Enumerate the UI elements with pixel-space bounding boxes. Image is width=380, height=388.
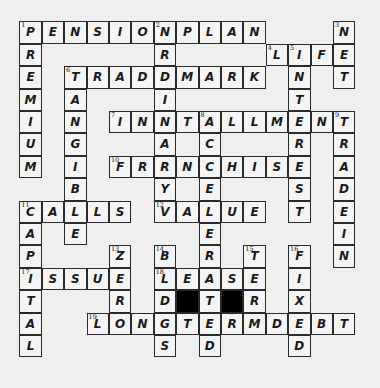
crossword-cell[interactable]: S	[109, 201, 131, 223]
crossword-cell[interactable]: R	[19, 44, 41, 66]
crossword-cell[interactable]: T	[288, 89, 310, 111]
crossword-cell[interactable]: A	[154, 133, 176, 155]
crossword-cell[interactable]: H	[221, 156, 243, 178]
crossword-cell[interactable]: T	[176, 313, 198, 335]
crossword-cell[interactable]: A	[333, 156, 355, 178]
crossword-cell[interactable]: I	[333, 223, 355, 245]
crossword-cell[interactable]: E	[333, 44, 355, 66]
crossword-cell[interactable]: E	[288, 111, 310, 133]
crossword-cell[interactable]: 9T	[333, 111, 355, 133]
crossword-cell[interactable]: E	[109, 268, 131, 290]
crossword-cell[interactable]: 1P	[19, 21, 41, 43]
crossword-cell[interactable]: N	[243, 21, 265, 43]
crossword-cell[interactable]: R	[154, 156, 176, 178]
crossword-cell[interactable]: R	[243, 290, 265, 312]
crossword-cell[interactable]: U	[19, 133, 41, 155]
crossword-cell[interactable]: E	[19, 66, 41, 88]
crossword-cell[interactable]: N	[154, 111, 176, 133]
crossword-cell[interactable]: R	[109, 290, 131, 312]
crossword-cell[interactable]: L	[199, 21, 221, 43]
crossword-cell[interactable]: D	[199, 335, 221, 357]
crossword-cell[interactable]: P	[176, 21, 198, 43]
crossword-cell[interactable]: D	[131, 66, 153, 88]
crossword-cell[interactable]: S	[288, 178, 310, 200]
crossword-cell[interactable]: E	[199, 313, 221, 335]
crossword-cell[interactable]: D	[266, 313, 288, 335]
crossword-cell[interactable]: R	[199, 245, 221, 267]
crossword-cell[interactable]: T	[199, 290, 221, 312]
crossword-cell[interactable]: O	[131, 21, 153, 43]
crossword-cell[interactable]: T	[176, 111, 198, 133]
crossword-cell[interactable]: E	[199, 178, 221, 200]
crossword-cell[interactable]: 11C	[19, 201, 41, 223]
crossword-cell[interactable]: G	[64, 133, 86, 155]
crossword-cell[interactable]: N	[64, 111, 86, 133]
crossword-cell[interactable]: L	[87, 201, 109, 223]
crossword-cell[interactable]: U	[221, 201, 243, 223]
crossword-cell[interactable]: N	[288, 66, 310, 88]
crossword-cell[interactable]: T	[288, 201, 310, 223]
crossword-cell[interactable]: A	[199, 66, 221, 88]
crossword-cell[interactable]: K	[243, 66, 265, 88]
crossword-cell[interactable]: D	[288, 335, 310, 357]
crossword-cell[interactable]: 5I	[288, 44, 310, 66]
crossword-cell[interactable]: L	[19, 335, 41, 357]
crossword-cell[interactable]: D	[154, 290, 176, 312]
crossword-cell[interactable]: S	[64, 268, 86, 290]
crossword-cell[interactable]: E	[333, 201, 355, 223]
crossword-cell[interactable]: A	[64, 89, 86, 111]
crossword-cell[interactable]: I	[243, 156, 265, 178]
crossword-cell[interactable]: A	[199, 268, 221, 290]
crossword-cell[interactable]: 6T	[64, 66, 86, 88]
crossword-cell[interactable]: X	[288, 290, 310, 312]
crossword-cell[interactable]: M	[19, 89, 41, 111]
crossword-cell[interactable]: D	[333, 178, 355, 200]
crossword-cell[interactable]: G	[154, 313, 176, 335]
crossword-cell[interactable]: C	[199, 156, 221, 178]
crossword-cell[interactable]: 8A	[199, 111, 221, 133]
crossword-cell[interactable]: A	[19, 223, 41, 245]
crossword-cell[interactable]: O	[109, 313, 131, 335]
crossword-cell[interactable]: 3N	[333, 21, 355, 43]
crossword-cell[interactable]: U	[87, 268, 109, 290]
crossword-cell[interactable]: A	[19, 313, 41, 335]
crossword-cell[interactable]: E	[288, 156, 310, 178]
crossword-cell[interactable]: 4L	[266, 44, 288, 66]
crossword-cell[interactable]: N	[333, 245, 355, 267]
crossword-cell[interactable]: T	[333, 313, 355, 335]
crossword-cell[interactable]: E	[199, 223, 221, 245]
crossword-cell[interactable]: R	[221, 66, 243, 88]
crossword-cell[interactable]: T	[19, 290, 41, 312]
crossword-cell[interactable]: 17I	[19, 268, 41, 290]
crossword-cell[interactable]: R	[288, 133, 310, 155]
crossword-cell[interactable]: N	[311, 111, 333, 133]
crossword-cell[interactable]: T	[333, 66, 355, 88]
crossword-cell[interactable]: 18L	[154, 268, 176, 290]
crossword-cell[interactable]: I	[109, 21, 131, 43]
crossword-cell[interactable]: N	[64, 21, 86, 43]
crossword-cell[interactable]: E	[42, 21, 64, 43]
crossword-cell[interactable]: F	[311, 44, 333, 66]
crossword-cell[interactable]: E	[243, 201, 265, 223]
crossword-cell[interactable]: M	[176, 66, 198, 88]
crossword-cell[interactable]: L	[221, 111, 243, 133]
crossword-cell[interactable]: P	[19, 245, 41, 267]
crossword-cell[interactable]: 19L	[87, 313, 109, 335]
crossword-cell[interactable]: C	[199, 133, 221, 155]
crossword-cell[interactable]: S	[42, 268, 64, 290]
crossword-cell[interactable]: 14B	[154, 245, 176, 267]
crossword-cell[interactable]: I	[288, 268, 310, 290]
crossword-cell[interactable]: 12V	[154, 201, 176, 223]
crossword-cell[interactable]: E	[288, 313, 310, 335]
crossword-cell[interactable]: 2N	[154, 21, 176, 43]
crossword-cell[interactable]: M	[243, 313, 265, 335]
crossword-cell[interactable]: 10F	[109, 156, 131, 178]
crossword-cell[interactable]: L	[243, 111, 265, 133]
crossword-cell[interactable]: R	[131, 156, 153, 178]
crossword-cell[interactable]: 7I	[109, 111, 131, 133]
crossword-cell[interactable]: 16F	[288, 245, 310, 267]
crossword-cell[interactable]: M	[19, 156, 41, 178]
crossword-cell[interactable]: S	[87, 21, 109, 43]
crossword-cell[interactable]: A	[109, 66, 131, 88]
crossword-cell[interactable]: N	[131, 111, 153, 133]
